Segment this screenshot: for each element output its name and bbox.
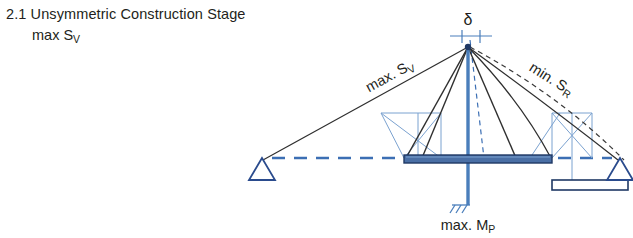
- max-mp-label-prefix: max. M: [441, 217, 489, 233]
- stay-cable-left-mid: [422, 47, 468, 158]
- max-sv-label: max. SV: [363, 56, 418, 97]
- right-pin-support: [607, 158, 633, 180]
- bridge-deck-bar: [404, 155, 552, 163]
- pylon-apex-node: [465, 44, 471, 50]
- min-sr-label-prefix: min. S: [527, 59, 570, 94]
- form-traveller-right: [530, 113, 592, 190]
- pylon-base-hatch-3: [462, 205, 467, 213]
- bridge-construction-stage-diagram: δ max. SV min. SR max. MP: [0, 0, 633, 238]
- stay-cable-right-inner: [468, 47, 516, 158]
- max-mp-label: max. MP: [441, 217, 496, 235]
- precast-segment-box: [552, 180, 628, 190]
- delta-dimension: [450, 30, 492, 43]
- pylon-fixed-base: [450, 205, 470, 213]
- delta-label: δ: [464, 11, 473, 28]
- stay-cables-left: [263, 47, 468, 160]
- form-traveller-right-brace-c: [530, 113, 560, 158]
- left-pin-support: [249, 158, 275, 180]
- pylon-base-hatch-1: [450, 205, 455, 213]
- pylon-base-hatch-2: [456, 205, 461, 213]
- max-sv-label-group: max. SV: [363, 56, 418, 97]
- bridge-deck: [404, 155, 552, 163]
- max-mp-label-subscript: P: [488, 223, 495, 235]
- max-sv-label-prefix: max. S: [363, 59, 410, 95]
